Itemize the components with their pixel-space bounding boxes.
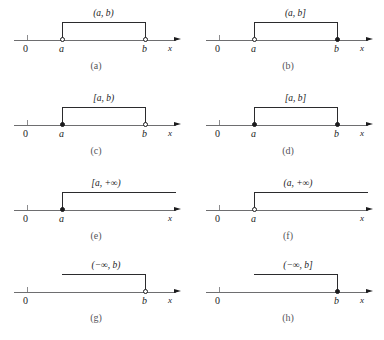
- number-line-axis: [206, 210, 368, 211]
- number-line-axis: [14, 125, 176, 126]
- number-line-axis: [14, 210, 176, 211]
- origin-label: 0: [215, 295, 220, 306]
- interval-bracket-bar: [254, 107, 337, 108]
- axis-variable-label: x: [168, 213, 172, 223]
- interval-panel-g: x0b(−∞, b)(g): [0, 252, 192, 337]
- interval-panel-e: x0a[a, +∞)(e): [0, 170, 192, 255]
- interval-panel-b: x0ab(a, b](b): [192, 0, 384, 85]
- endpoint-label-left: a: [251, 128, 256, 139]
- number-line-axis: [206, 125, 368, 126]
- interval-notation-label: [a, b): [93, 93, 114, 103]
- origin-label: 0: [215, 43, 220, 54]
- interval-bracket-bar: [254, 22, 337, 23]
- origin-label: 0: [23, 128, 28, 139]
- interval-bracket-bar: [62, 192, 176, 193]
- axis-arrow-icon: [174, 37, 181, 41]
- endpoint-marker-right-closed: [335, 122, 340, 127]
- origin-tick: [219, 35, 220, 40]
- interval-bracket-bar: [254, 274, 337, 275]
- origin-tick: [27, 120, 28, 125]
- endpoint-label-right: b: [142, 128, 147, 139]
- axis-variable-label: x: [168, 295, 172, 305]
- axis-arrow-icon: [366, 207, 373, 211]
- axis-arrow-icon: [174, 207, 181, 211]
- axis-arrow-icon: [366, 37, 373, 41]
- endpoint-label-right: b: [334, 295, 339, 306]
- axis-variable-label: x: [360, 295, 364, 305]
- origin-tick: [27, 205, 28, 210]
- interval-panel-c: x0ab[a, b)(c): [0, 85, 192, 170]
- interval-panel-a: x0ab(a, b)(a): [0, 0, 192, 85]
- interval-notation-figure: x0ab(a, b)(a)x0ab(a, b](b)x0ab[a, b)(c)x…: [0, 0, 384, 340]
- panel-caption: (c): [0, 145, 192, 156]
- interval-notation-label: (−∞, b]: [283, 260, 313, 270]
- number-line-axis: [206, 292, 368, 293]
- endpoint-label-left: a: [59, 213, 64, 224]
- endpoint-label-left: a: [251, 213, 256, 224]
- interval-notation-label: (a, b]: [285, 8, 306, 18]
- endpoint-label-right: b: [142, 295, 147, 306]
- interval-bracket-bar: [62, 22, 145, 23]
- origin-label: 0: [23, 295, 28, 306]
- axis-variable-label: x: [360, 213, 364, 223]
- origin-tick: [27, 287, 28, 292]
- endpoint-marker-left-open: [252, 37, 257, 42]
- endpoint-marker-right-open: [143, 122, 148, 127]
- panel-caption: (d): [192, 145, 384, 156]
- endpoint-marker-left-open: [60, 37, 65, 42]
- endpoint-marker-right-open: [143, 37, 148, 42]
- endpoint-marker-right-closed: [335, 37, 340, 42]
- axis-variable-label: x: [168, 43, 172, 53]
- endpoint-label-right: b: [142, 43, 147, 54]
- endpoint-label-left: a: [59, 43, 64, 54]
- endpoint-label-left: a: [251, 43, 256, 54]
- interval-notation-label: (a, b): [93, 8, 114, 18]
- axis-arrow-icon: [174, 122, 181, 126]
- axis-variable-label: x: [360, 128, 364, 138]
- endpoint-label-right: b: [334, 43, 339, 54]
- interval-panel-f: x0a(a, +∞)(f): [192, 170, 384, 255]
- panel-caption: (e): [0, 230, 192, 241]
- interval-notation-label: [a, b]: [285, 93, 307, 103]
- origin-label: 0: [23, 213, 28, 224]
- axis-variable-label: x: [168, 128, 172, 138]
- endpoint-label-left: a: [59, 128, 64, 139]
- endpoint-marker-left-closed: [60, 207, 65, 212]
- panel-caption: (g): [0, 312, 192, 323]
- number-line-axis: [14, 40, 176, 41]
- interval-panel-h: x0b(−∞, b](h): [192, 252, 384, 337]
- origin-tick: [219, 120, 220, 125]
- axis-arrow-icon: [366, 289, 373, 293]
- origin-tick: [27, 35, 28, 40]
- endpoint-label-right: b: [334, 128, 339, 139]
- origin-label: 0: [215, 213, 220, 224]
- interval-notation-label: (−∞, b): [91, 260, 120, 270]
- interval-notation-label: [a, +∞): [91, 178, 121, 188]
- axis-variable-label: x: [360, 43, 364, 53]
- interval-bracket-bar: [254, 192, 368, 193]
- origin-tick: [219, 205, 220, 210]
- interval-bracket-bar: [62, 107, 145, 108]
- panel-caption: (h): [192, 312, 384, 323]
- origin-tick: [219, 287, 220, 292]
- endpoint-marker-left-closed: [252, 122, 257, 127]
- interval-notation-label: (a, +∞): [283, 178, 312, 188]
- panel-caption: (b): [192, 60, 384, 71]
- endpoint-marker-left-closed: [60, 122, 65, 127]
- origin-label: 0: [23, 43, 28, 54]
- endpoint-marker-left-open: [252, 207, 257, 212]
- axis-arrow-icon: [174, 289, 181, 293]
- number-line-axis: [14, 292, 176, 293]
- origin-label: 0: [215, 128, 220, 139]
- axis-arrow-icon: [366, 122, 373, 126]
- panel-caption: (a): [0, 60, 192, 71]
- number-line-axis: [206, 40, 368, 41]
- panel-caption: (f): [192, 230, 384, 241]
- interval-bracket-bar: [62, 274, 145, 275]
- endpoint-marker-right-closed: [335, 289, 340, 294]
- interval-panel-d: x0ab[a, b](d): [192, 85, 384, 170]
- endpoint-marker-right-open: [143, 289, 148, 294]
